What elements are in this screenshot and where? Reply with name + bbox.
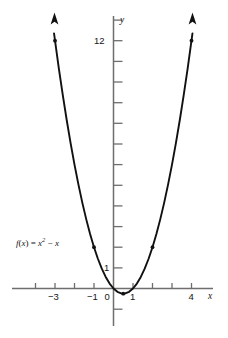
y-tick-label-12: 12: [94, 36, 105, 46]
x-tick-label-minus1: −1: [87, 292, 98, 302]
graph-figure: 12 1 −3 −1 0 1 4 y x f(x) = x2 − x: [0, 0, 228, 338]
data-point-marker: [151, 245, 155, 249]
arrow-right-icon: [189, 13, 197, 25]
x-axis-label: x: [208, 292, 212, 302]
x-tick-label-minus3: −3: [48, 292, 59, 302]
data-point-marker: [53, 39, 57, 43]
function-curve: [54, 33, 192, 293]
function-annotation: f(x) = x2 − x: [16, 237, 59, 248]
y-axis-label: y: [120, 16, 124, 26]
data-point-marker: [92, 245, 96, 249]
y-tick-label-1: 1: [104, 263, 109, 273]
fn-var-3: x: [55, 238, 59, 248]
fn-minus: −: [45, 238, 55, 248]
x-tick-label-1: 1: [130, 292, 135, 302]
x-tick-label-0: 0: [105, 292, 110, 302]
arrow-left-icon: [51, 13, 59, 25]
data-point-marker: [190, 39, 194, 43]
fn-equals: =: [29, 238, 39, 248]
x-tick-label-4: 4: [189, 292, 194, 302]
data-point-marker: [121, 292, 125, 296]
y-axis-ticks: [114, 20, 123, 309]
parabola-plot: [0, 0, 228, 338]
